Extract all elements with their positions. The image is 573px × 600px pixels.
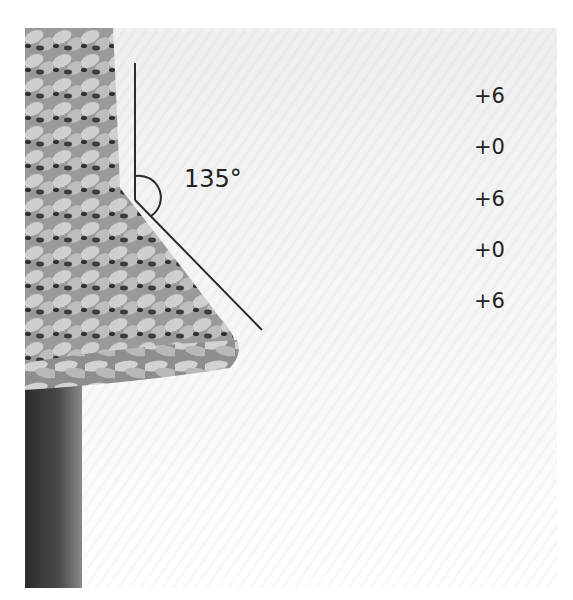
increment-row-2: +0 [474,135,505,159]
angle-arc [135,176,161,216]
increment-row-5: +6 [474,289,505,313]
slant-line [135,200,262,330]
increment-row-3: +6 [474,187,505,211]
angle-label: 135° [184,165,242,193]
increment-row-1: +6 [474,84,505,108]
increment-row-4: +0 [474,238,505,262]
